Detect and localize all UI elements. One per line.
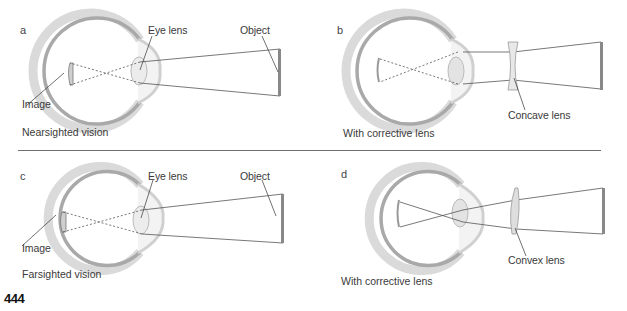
object-label: Object [240,24,270,36]
image-label: Image [22,98,51,110]
eye-lens-label: Eye lens [148,170,187,182]
concave-lens-label: Concave lens [508,109,570,121]
eye-lens-label: Eye lens [148,24,187,36]
panel-caption: Farsighted vision [22,268,101,280]
panel-letter: c [20,170,26,182]
panel-caption: With corrective lens [341,275,433,287]
panel-caption: With corrective lens [343,127,435,139]
image-label: Image [22,242,51,254]
panel-letter: b [337,24,343,36]
convex-lens-label: Convex lens [508,254,565,266]
panel-caption: Nearsighted vision [22,126,108,138]
panel-letter: d [341,168,347,180]
panel-farsighted: c Eye lens Object Image Farsighted visio… [0,150,313,300]
panel-farsighted-corrected: d Convex lens With corrective lens [313,150,626,300]
panel-nearsighted: a Eye lens Object Image Nearsighted visi… [0,0,313,150]
page-number: 444 [4,291,24,306]
panel-nearsighted-corrected: b Concave lens With corrective lens [313,0,626,150]
object-label: Object [240,170,270,182]
panel-letter: a [20,24,26,36]
